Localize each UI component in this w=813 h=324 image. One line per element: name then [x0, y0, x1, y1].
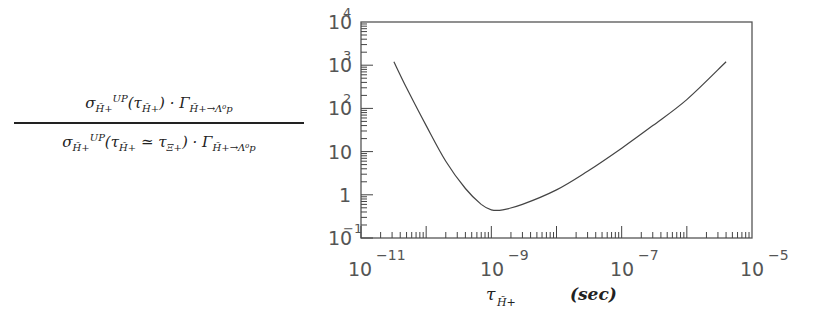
y-tick-base: 1 [339, 184, 351, 206]
y-tick-exp: 4 [343, 5, 351, 20]
x-tick-label: 10−7 [610, 247, 659, 280]
tau-sub: H̃+ [496, 296, 516, 309]
x-tick-base: 10 [348, 258, 372, 280]
x-tick-exp: −9 [508, 247, 529, 263]
plot-frame [361, 22, 752, 238]
x-axis-title: τ H̃+ (sec) [486, 284, 617, 309]
x-tick-label: 10−11 [348, 247, 406, 280]
x-tick-base: 10 [480, 258, 504, 280]
y-tick-exp: 3 [343, 48, 351, 63]
tau-symbol: τ [486, 284, 496, 304]
x-tick-exp: −7 [638, 247, 659, 263]
y-tick-label: 102 [328, 91, 352, 119]
y-tick-label: 10−1 [328, 221, 362, 249]
y-tick-base: 10 [328, 141, 352, 163]
y-tick-exp: −1 [343, 221, 362, 236]
x-axis-tick-labels: 10−1110−910−710−5 [348, 247, 789, 280]
x-tick-base: 10 [740, 258, 764, 280]
x-tick-exp: −5 [768, 247, 789, 263]
log-log-plot: 10410310210110−1 10−1110−910−710−5 τ H̃+… [0, 0, 813, 324]
x-tick-label: 10−5 [740, 247, 789, 280]
y-tick-label: 103 [328, 48, 352, 76]
x-axis-ticks [361, 226, 749, 238]
y-axis-tick-labels: 10410310210110−1 [328, 5, 362, 249]
y-tick-label: 1 [339, 184, 351, 206]
y-tick-exp: 2 [343, 91, 351, 106]
unit-label: (sec) [570, 284, 617, 304]
x-tick-base: 10 [610, 258, 634, 280]
ratio-curve [394, 62, 726, 211]
x-tick-exp: −11 [376, 247, 406, 263]
y-tick-label: 10 [328, 141, 352, 163]
y-axis-ticks [361, 24, 373, 238]
frame-rect [361, 22, 752, 238]
x-tick-label: 10−9 [480, 247, 529, 280]
y-tick-label: 104 [328, 5, 352, 33]
